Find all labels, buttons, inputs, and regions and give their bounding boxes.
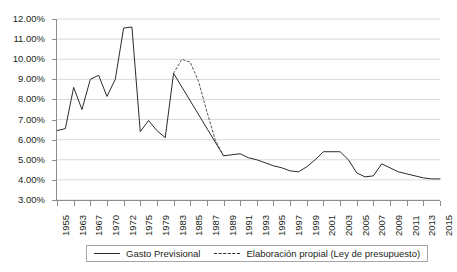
- x-tick-label: 1985: [194, 215, 204, 236]
- x-tick-label: 1970: [111, 215, 121, 236]
- y-tick-mark: [52, 59, 57, 60]
- x-tick-label: 2015: [444, 215, 454, 236]
- y-tick-mark: [52, 19, 57, 20]
- x-tick-mark: [323, 201, 324, 206]
- x-tick-label: 1987: [211, 215, 221, 236]
- x-tick-mark: [440, 201, 441, 206]
- x-tick-label: 2013: [427, 215, 437, 236]
- plot-area: [57, 19, 440, 200]
- y-tick-mark: [52, 180, 57, 181]
- y-axis-tick-labels: 12.00%11.00%10.00%9.00%8.00%7.00%6.00%5.…: [0, 0, 52, 272]
- x-tick-label: 1979: [161, 215, 171, 236]
- y-tick-label: 11.00%: [13, 34, 45, 44]
- x-tick-mark: [307, 201, 308, 206]
- chart-legend: Gasto PrevisionalElaboración propial (Le…: [86, 245, 428, 262]
- x-tick-label: 1999: [311, 215, 321, 236]
- x-tick-label: 2001: [327, 215, 337, 236]
- x-axis-line: [56, 200, 440, 201]
- x-tick-mark: [207, 201, 208, 206]
- x-tick-mark: [74, 201, 75, 206]
- x-tick-mark: [357, 201, 358, 206]
- data-series-layer: [57, 19, 440, 200]
- y-tick-mark: [52, 39, 57, 40]
- y-tick-mark: [52, 160, 57, 161]
- y-tick-mark: [52, 120, 57, 121]
- x-tick-mark: [90, 201, 91, 206]
- x-tick-label: 2009: [394, 215, 404, 236]
- y-tick-mark: [52, 79, 57, 80]
- y-tick-mark: [52, 140, 57, 141]
- y-axis-line: [56, 19, 57, 201]
- x-tick-mark: [190, 201, 191, 206]
- x-tick-mark: [157, 201, 158, 206]
- x-tick-label: 1993: [261, 215, 271, 236]
- x-tick-label: 1972: [128, 215, 138, 236]
- legend-entry: Elaboración propial (Ley de presupuesto): [214, 249, 420, 259]
- x-tick-mark: [140, 201, 141, 206]
- x-tick-label: 1995: [277, 215, 287, 236]
- legend-line-swatch-icon: [94, 253, 120, 254]
- line-chart: 12.00%11.00%10.00%9.00%8.00%7.00%6.00%5.…: [0, 0, 457, 272]
- x-tick-label: 1975: [144, 215, 154, 236]
- legend-line-swatch-icon: [214, 253, 240, 254]
- x-tick-label: 1955: [61, 215, 71, 236]
- x-tick-mark: [290, 201, 291, 206]
- y-tick-label: 8.00%: [18, 94, 45, 104]
- series-line-1: [174, 59, 224, 156]
- x-tick-mark: [340, 201, 341, 206]
- x-tick-mark: [273, 201, 274, 206]
- y-tick-mark: [52, 99, 57, 100]
- y-tick-label: 4.00%: [18, 175, 45, 185]
- x-tick-label: 2007: [377, 215, 387, 236]
- y-tick-label: 9.00%: [18, 74, 45, 84]
- x-tick-label: 1983: [178, 215, 188, 236]
- legend-label: Elaboración propial (Ley de presupuesto): [246, 249, 420, 259]
- legend-label: Gasto Previsional: [126, 249, 200, 259]
- x-tick-mark: [373, 201, 374, 206]
- x-tick-label: 2005: [361, 215, 371, 236]
- y-tick-label: 10.00%: [13, 54, 45, 64]
- x-tick-label: 1967: [94, 215, 104, 236]
- x-tick-mark: [407, 201, 408, 206]
- x-tick-label: 1989: [228, 215, 238, 236]
- x-tick-mark: [224, 201, 225, 206]
- x-tick-mark: [423, 201, 424, 206]
- x-tick-mark: [57, 201, 58, 206]
- x-tick-mark: [107, 201, 108, 206]
- x-tick-label: 1997: [294, 215, 304, 236]
- x-tick-label: 1963: [78, 215, 88, 236]
- y-tick-label: 6.00%: [18, 135, 45, 145]
- x-tick-label: 2011: [411, 216, 421, 236]
- y-tick-label: 3.00%: [18, 195, 45, 205]
- x-tick-label: 1991: [244, 215, 254, 236]
- series-line-0: [57, 27, 440, 179]
- x-tick-mark: [257, 201, 258, 206]
- x-tick-label: 2003: [344, 215, 354, 236]
- legend-entry: Gasto Previsional: [94, 249, 200, 259]
- x-tick-mark: [240, 201, 241, 206]
- x-tick-mark: [124, 201, 125, 206]
- y-tick-label: 7.00%: [18, 115, 45, 125]
- y-tick-label: 5.00%: [18, 155, 45, 165]
- y-tick-label: 12.00%: [13, 14, 45, 24]
- x-tick-mark: [390, 201, 391, 206]
- x-tick-mark: [174, 201, 175, 206]
